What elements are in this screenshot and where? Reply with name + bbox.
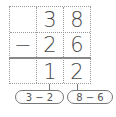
- subtraction-grid: 3 8 − 2 6 1 2: [9, 6, 91, 84]
- row2-tens: 2: [37, 32, 63, 57]
- row1-ones: 8: [64, 7, 90, 32]
- result-ones: 2: [64, 59, 90, 84]
- result-tens: 1: [37, 59, 63, 84]
- row1-op: [10, 7, 36, 32]
- minus-sign: −: [10, 32, 36, 57]
- row2-ones: 6: [64, 32, 90, 57]
- result-op: [10, 59, 36, 84]
- row1-tens: 3: [37, 7, 63, 32]
- tens-annotation: 3 − 2: [15, 90, 64, 104]
- ones-annotation: 8 − 6: [67, 90, 113, 104]
